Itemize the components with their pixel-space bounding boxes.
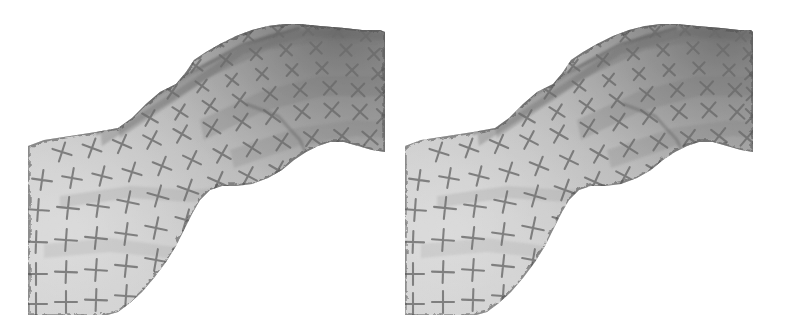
panel-left-surface-rendering — [0, 0, 392, 315]
panel-right-surface-rendering — [393, 0, 785, 315]
figure-container: Textured surface reconstruction pair — [0, 0, 785, 315]
left-surface-svg — [0, 0, 392, 315]
right-surface-svg — [393, 0, 785, 315]
